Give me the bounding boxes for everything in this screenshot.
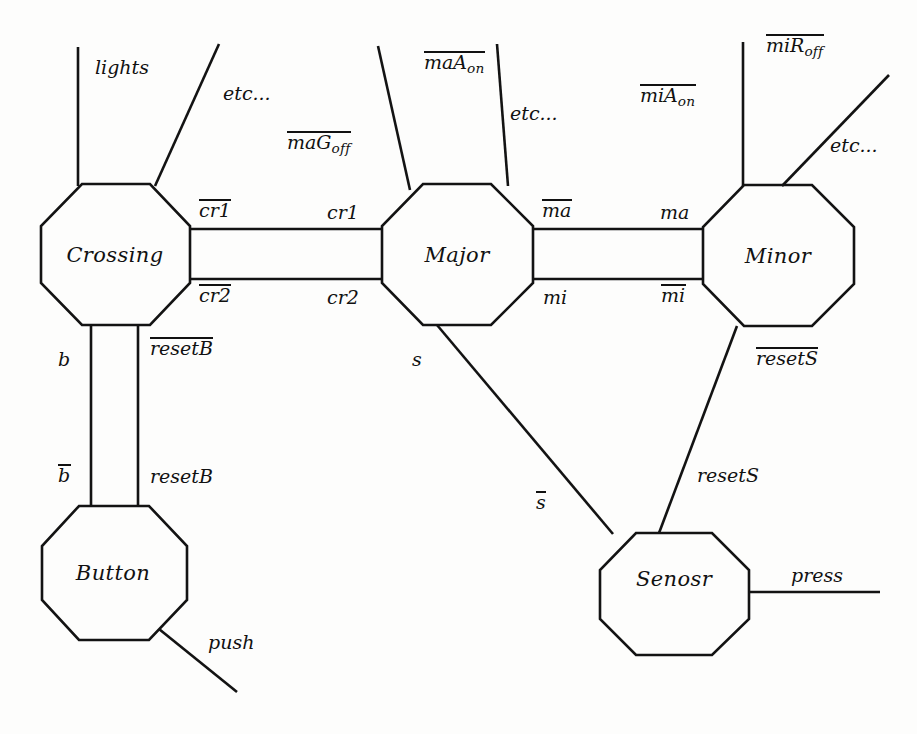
port-label-ma: ma — [660, 203, 689, 223]
port-label-ma-bar: ma — [542, 200, 571, 221]
wire-maG-off — [378, 46, 410, 190]
port-label-press: press — [791, 566, 843, 586]
port-label-mi-bar: mi — [661, 285, 685, 306]
port-label-mag-off: maGoff — [287, 132, 350, 155]
port-label-b: b — [58, 350, 70, 370]
port-label-resets-bar: resetS — [756, 348, 818, 369]
wire-maA-on — [497, 44, 508, 186]
port-label-push: push — [208, 633, 254, 653]
node-label-crossing: Crossing — [66, 243, 163, 267]
port-label-resetb-bar: resetB — [150, 338, 213, 359]
port-label-lights: lights — [95, 58, 149, 78]
port-label-maa-on: maAon — [424, 52, 485, 75]
port-label-cr2: cr2 — [327, 288, 359, 308]
port-label-mia-on: miAon — [640, 85, 695, 108]
node-sensor[interactable] — [600, 533, 749, 655]
channel-minor-sensor-resets — [659, 326, 737, 533]
port-label-etc-minor: etc... — [830, 136, 878, 156]
wire-miR-off — [782, 75, 889, 186]
channel-major-sensor-s — [437, 325, 613, 534]
diagram-canvas: Crossing Major Minor Button Senosr light… — [0, 0, 917, 734]
port-label-etc-crossing: etc... — [223, 84, 271, 104]
node-label-minor: Minor — [745, 244, 811, 268]
port-label-mi: mi — [543, 288, 567, 308]
port-label-cr1-bar: cr1 — [199, 200, 231, 221]
port-label-resetb: resetB — [150, 467, 213, 487]
port-label-s-bar: s — [536, 492, 546, 513]
port-label-etc-major: etc... — [510, 104, 558, 124]
port-label-resets: resetS — [697, 466, 759, 486]
port-label-cr2-bar: cr2 — [199, 285, 231, 306]
wire-etc-crossing — [155, 44, 219, 186]
node-label-major: Major — [424, 243, 489, 267]
port-label-mir-off: miRoff — [766, 35, 823, 58]
port-label-s: s — [412, 350, 422, 370]
node-label-sensor: Senosr — [636, 567, 712, 591]
node-label-button: Button — [76, 561, 150, 585]
port-label-cr1: cr1 — [327, 203, 359, 223]
port-label-b-bar: b — [58, 465, 70, 486]
